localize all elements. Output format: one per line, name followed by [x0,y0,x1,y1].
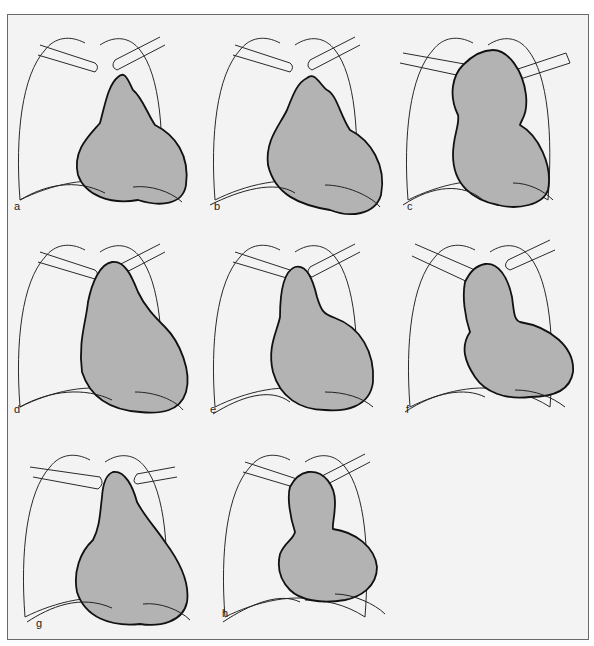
panel-e [213,244,373,414]
panel-f [405,240,573,412]
panel-c [400,38,570,207]
chest-silhouettes-diagram [0,0,594,646]
panel-label-h: h [222,607,228,619]
panel-label-f: f [406,403,409,415]
panel-g [23,455,190,625]
panel-label-e: e [210,403,216,415]
panel-h [223,454,385,622]
panel-a [18,37,186,204]
panel-label-c: c [407,200,413,212]
panel-label-g: g [36,617,42,629]
panel-label-b: b [214,200,220,212]
panel-d [18,244,187,413]
panel-label-a: a [14,200,20,212]
panel-b [210,37,382,214]
panel-label-d: d [14,403,20,415]
